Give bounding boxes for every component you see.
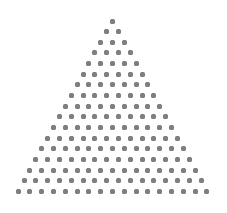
dot bbox=[116, 178, 121, 183]
dot bbox=[69, 178, 74, 183]
dot bbox=[45, 157, 50, 162]
dot bbox=[39, 146, 44, 151]
dot bbox=[92, 50, 97, 55]
dot bbox=[110, 168, 115, 173]
dot bbox=[57, 136, 62, 141]
dot bbox=[86, 189, 91, 194]
dot bbox=[110, 82, 115, 87]
dot bbox=[27, 168, 32, 173]
dot bbox=[128, 114, 133, 119]
dot bbox=[175, 136, 180, 141]
dot bbox=[122, 168, 127, 173]
dot bbox=[122, 125, 127, 130]
dot bbox=[128, 178, 133, 183]
dot bbox=[128, 93, 133, 98]
dot bbox=[163, 136, 168, 141]
dot bbox=[69, 114, 74, 119]
dot bbox=[163, 157, 168, 162]
dot bbox=[187, 178, 192, 183]
dot bbox=[145, 189, 150, 194]
dot bbox=[122, 189, 127, 194]
dot bbox=[81, 114, 86, 119]
dot bbox=[140, 178, 145, 183]
dot bbox=[81, 72, 86, 77]
dot bbox=[181, 168, 186, 173]
dot bbox=[151, 114, 156, 119]
dot bbox=[86, 168, 91, 173]
dot bbox=[45, 136, 50, 141]
dot bbox=[51, 168, 56, 173]
dot bbox=[110, 19, 115, 24]
dot bbox=[57, 114, 62, 119]
dot bbox=[128, 136, 133, 141]
dot bbox=[157, 104, 162, 109]
dot bbox=[98, 40, 103, 45]
dot bbox=[51, 125, 56, 130]
dot bbox=[157, 146, 162, 151]
dot bbox=[140, 93, 145, 98]
dot bbox=[27, 189, 32, 194]
dot bbox=[204, 189, 209, 194]
dot bbox=[92, 93, 97, 98]
dot bbox=[134, 189, 139, 194]
dot bbox=[128, 72, 133, 77]
dot bbox=[110, 104, 115, 109]
dot bbox=[199, 178, 204, 183]
dot bbox=[98, 125, 103, 130]
dot bbox=[81, 178, 86, 183]
dot bbox=[116, 136, 121, 141]
dot bbox=[151, 136, 156, 141]
dot bbox=[122, 104, 127, 109]
dot bbox=[57, 178, 62, 183]
dot bbox=[63, 189, 68, 194]
dot bbox=[75, 82, 80, 87]
dot bbox=[110, 189, 115, 194]
dot bbox=[193, 189, 198, 194]
dot bbox=[122, 61, 127, 66]
dot bbox=[145, 82, 150, 87]
dot bbox=[51, 189, 56, 194]
dot bbox=[33, 157, 38, 162]
dot bbox=[134, 61, 139, 66]
dot bbox=[134, 104, 139, 109]
dot bbox=[187, 157, 192, 162]
dot bbox=[140, 72, 145, 77]
dot bbox=[116, 72, 121, 77]
dot bbox=[145, 125, 150, 130]
dot bbox=[98, 168, 103, 173]
dot bbox=[86, 104, 91, 109]
dot bbox=[104, 50, 109, 55]
dot bbox=[116, 93, 121, 98]
dot bbox=[145, 104, 150, 109]
dot bbox=[86, 125, 91, 130]
dot bbox=[181, 189, 186, 194]
dot bbox=[98, 61, 103, 66]
dot bbox=[51, 146, 56, 151]
dot bbox=[63, 146, 68, 151]
triangle-dot-diagram bbox=[0, 0, 227, 213]
dot bbox=[104, 136, 109, 141]
dot bbox=[22, 178, 27, 183]
dot bbox=[157, 125, 162, 130]
dot bbox=[110, 40, 115, 45]
dot bbox=[86, 146, 91, 151]
dot bbox=[75, 168, 80, 173]
dot bbox=[134, 82, 139, 87]
dot bbox=[39, 168, 44, 173]
dot bbox=[33, 178, 38, 183]
dot bbox=[104, 72, 109, 77]
dot bbox=[63, 104, 68, 109]
dot bbox=[116, 114, 121, 119]
dot bbox=[151, 157, 156, 162]
dot bbox=[104, 114, 109, 119]
dot bbox=[75, 125, 80, 130]
dot bbox=[116, 50, 121, 55]
dot bbox=[92, 136, 97, 141]
dot bbox=[151, 93, 156, 98]
dot bbox=[81, 136, 86, 141]
dot bbox=[75, 104, 80, 109]
dot bbox=[163, 178, 168, 183]
dot bbox=[157, 168, 162, 173]
dot bbox=[175, 157, 180, 162]
dot bbox=[122, 82, 127, 87]
